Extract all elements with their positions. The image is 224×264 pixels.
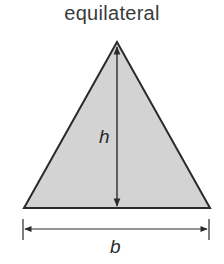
- base-label: b: [110, 236, 121, 257]
- height-label: h: [99, 126, 110, 147]
- triangle-diagram: h b: [0, 0, 224, 264]
